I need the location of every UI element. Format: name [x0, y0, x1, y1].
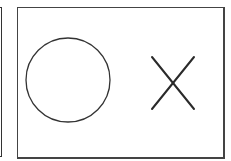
- shapes-canvas: [0, 0, 231, 161]
- x-icon: [152, 57, 194, 109]
- circle-icon: [26, 38, 110, 122]
